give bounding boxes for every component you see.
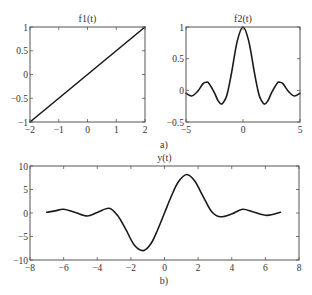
plot-f2-xtick-label: 0 bbox=[241, 125, 246, 135]
plot-y-ticks: −8−6−4−202468−10−50510 bbox=[13, 162, 301, 274]
plot-f2-ytick-label: −0.5 bbox=[167, 118, 184, 128]
plot-f2-ticks: −505−0.500.51 bbox=[167, 23, 303, 136]
plot-f2-xtick-label: 5 bbox=[298, 125, 303, 135]
plot-f1-ytick-label: 1 bbox=[23, 23, 28, 33]
plot-y-ytick-label: 0 bbox=[23, 209, 28, 219]
plot-y: y(t) −8−6−4−202468−10−50510 bbox=[13, 152, 301, 273]
plot-y-line bbox=[47, 174, 281, 250]
plot-f2-ytick-label: 0 bbox=[179, 86, 184, 96]
plot-f1-ticks: −2−1012−1−0.500.51 bbox=[11, 23, 148, 136]
plot-y-ytick-label: 10 bbox=[19, 162, 29, 172]
plot-y-xtick-label: −4 bbox=[92, 263, 102, 273]
plot-f1-xtick-label: 1 bbox=[114, 125, 119, 135]
plot-f2-title: f2(t) bbox=[234, 13, 252, 25]
figure: f1(t) −2−1012−1−0.500.51 f2(t) −505−0.50… bbox=[0, 0, 312, 295]
plot-y-ytick-label: 5 bbox=[23, 185, 28, 195]
plot-f1-title: f1(t) bbox=[79, 13, 97, 25]
plot-f1-ytick-label: 0 bbox=[23, 70, 28, 80]
figure-label-a: a) bbox=[160, 139, 168, 151]
plot-y-xtick-label: 6 bbox=[263, 263, 268, 273]
plot-f1: f1(t) −2−1012−1−0.500.51 bbox=[11, 13, 148, 135]
plot-f2-ytick-label: 1 bbox=[179, 23, 184, 33]
plot-f2-axes bbox=[186, 27, 300, 122]
plot-y-title: y(t) bbox=[157, 152, 171, 164]
plot-f1-xtick-label: 0 bbox=[85, 125, 90, 135]
plot-f1-ytick-label: −1 bbox=[18, 118, 28, 128]
plot-y-ytick-label: −5 bbox=[18, 232, 28, 242]
plot-y-ytick-label: −10 bbox=[13, 256, 28, 266]
plot-f2-line bbox=[186, 27, 300, 104]
plot-f2: f2(t) −505−0.500.51 bbox=[167, 13, 303, 135]
plot-f2-ytick-label: 0.5 bbox=[172, 54, 184, 64]
plot-f1-xtick-label: 2 bbox=[143, 125, 148, 135]
figure-label-b: b) bbox=[160, 275, 168, 287]
plot-y-xtick-label: 4 bbox=[229, 263, 234, 273]
plot-f1-ytick-label: 0.5 bbox=[16, 46, 28, 56]
plot-f1-line bbox=[30, 27, 145, 122]
plot-y-xtick-label: 8 bbox=[297, 263, 302, 273]
plot-f1-xtick-label: −1 bbox=[54, 125, 64, 135]
plot-y-xtick-label: −6 bbox=[59, 263, 69, 273]
plot-y-xtick-label: 2 bbox=[196, 263, 201, 273]
plot-y-xtick-label: 0 bbox=[162, 263, 167, 273]
plot-y-xtick-label: −2 bbox=[126, 263, 136, 273]
plot-f1-ytick-label: −0.5 bbox=[11, 94, 28, 104]
